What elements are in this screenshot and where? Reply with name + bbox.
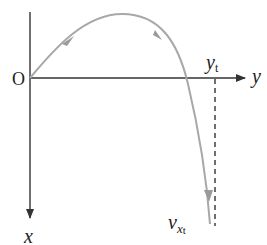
trajectory-diagram: [0, 0, 267, 245]
curve-arrow-icon: [204, 190, 213, 202]
trajectory-curve: [30, 14, 210, 224]
yt-label: yt: [206, 52, 218, 74]
curve-arrow-icon: [153, 30, 162, 40]
y-axis-label: y: [252, 66, 261, 86]
x-axis-label: x: [24, 226, 33, 245]
yt-label-sub: t: [215, 61, 218, 75]
origin-label: O: [12, 70, 25, 88]
vxt-label-main: v: [168, 211, 177, 233]
vxt-label: vxt: [168, 212, 186, 236]
vxt-label-sub-t: t: [183, 224, 186, 236]
yt-label-main: y: [206, 51, 215, 73]
